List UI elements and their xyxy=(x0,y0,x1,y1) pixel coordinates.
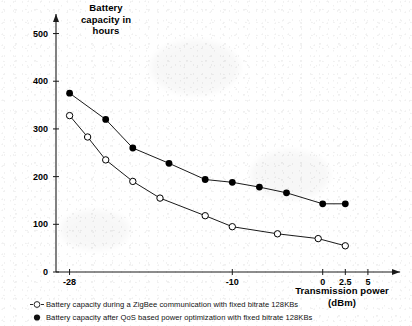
data-point xyxy=(342,243,348,249)
data-point xyxy=(342,200,349,207)
data-point xyxy=(256,184,263,191)
legend-label-0: Battery capacity during a ZigBee communi… xyxy=(46,300,298,309)
y-tick-label: 500 xyxy=(20,29,48,39)
chart-legend: Battery capacity during a ZigBee communi… xyxy=(0,296,412,326)
data-point xyxy=(157,195,163,201)
axis-lines xyxy=(53,14,400,275)
data-point xyxy=(274,231,280,237)
open-circle-marker-icon xyxy=(30,300,44,309)
data-point xyxy=(229,179,236,186)
y-tick-label: 300 xyxy=(20,124,48,134)
series-line xyxy=(70,93,346,204)
data-point xyxy=(283,189,290,196)
data-point xyxy=(84,134,90,140)
filled-circle-marker-icon xyxy=(30,313,44,322)
data-point xyxy=(319,200,326,207)
data-point xyxy=(166,160,173,167)
data-point xyxy=(103,157,109,163)
data-point xyxy=(202,213,208,219)
data-point xyxy=(102,116,109,123)
data-series-layer xyxy=(66,90,349,249)
x-tick-label: -28 xyxy=(50,277,90,287)
y-tick-label: 400 xyxy=(20,76,48,86)
data-point xyxy=(129,145,136,152)
y-axis-title-line-2: capacity in xyxy=(60,14,152,26)
data-point xyxy=(315,235,321,241)
y-axis-title-line-1: Battery xyxy=(60,2,152,14)
legend-item-1: Battery capacity after QoS based power o… xyxy=(30,312,312,324)
x-tick-label: 5 xyxy=(348,277,388,287)
x-tick-label: -10 xyxy=(212,277,252,287)
y-tick-label: 0 xyxy=(20,267,48,277)
legend-item-0: Battery capacity during a ZigBee communi… xyxy=(30,299,298,311)
series-1 xyxy=(66,90,349,207)
plot-area: Battery capacity in hours Transmission p… xyxy=(0,0,412,296)
y-axis-title-line-3: hours xyxy=(60,25,152,37)
data-point xyxy=(229,224,235,230)
data-point xyxy=(202,176,209,183)
y-axis-title: Battery capacity in hours xyxy=(60,2,152,37)
legend-label-1: Battery capacity after QoS based power o… xyxy=(46,313,312,322)
y-tick-label: 200 xyxy=(20,172,48,182)
y-tick-label: 100 xyxy=(20,219,48,229)
data-point xyxy=(66,90,73,97)
chart-figure: Battery capacity in hours Transmission p… xyxy=(0,0,412,326)
data-point xyxy=(66,112,72,118)
plot-svg xyxy=(0,0,412,296)
data-point xyxy=(130,178,136,184)
